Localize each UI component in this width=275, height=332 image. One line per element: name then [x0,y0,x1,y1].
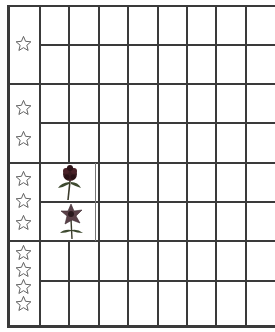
group-divider-1 [7,83,275,85]
col-line-4 [157,5,159,327]
star-outline-icon [15,99,32,116]
star-outline-icon [15,261,32,278]
col-line-1-bottom [68,241,70,327]
col-line-5 [186,5,188,327]
col-line-6 [215,5,217,327]
col-line-7 [245,5,247,327]
outer-top-border [7,5,275,7]
star-outline-icon [15,278,32,295]
col-line-1-top [68,5,70,163]
outer-bottom-border [7,325,275,328]
star-outline-icon [15,35,32,52]
star-outline-icon [15,214,32,231]
star-outline-icon [15,244,32,261]
picture-graph-grid [0,0,275,332]
group-divider-3 [7,240,275,242]
flower-cell-inner-border [95,163,96,241]
group-divider-2 [7,162,275,164]
star-outline-icon [15,130,32,147]
dark-flower-icon [55,163,85,201]
star-flower-icon [56,203,86,240]
star-outline-icon [15,170,32,187]
col-line-2 [98,5,100,327]
col-line-3 [127,5,129,327]
star-outline-icon [15,192,32,209]
label-column-divider [39,5,41,327]
star-outline-icon [15,295,32,312]
outer-left-border [7,5,10,328]
